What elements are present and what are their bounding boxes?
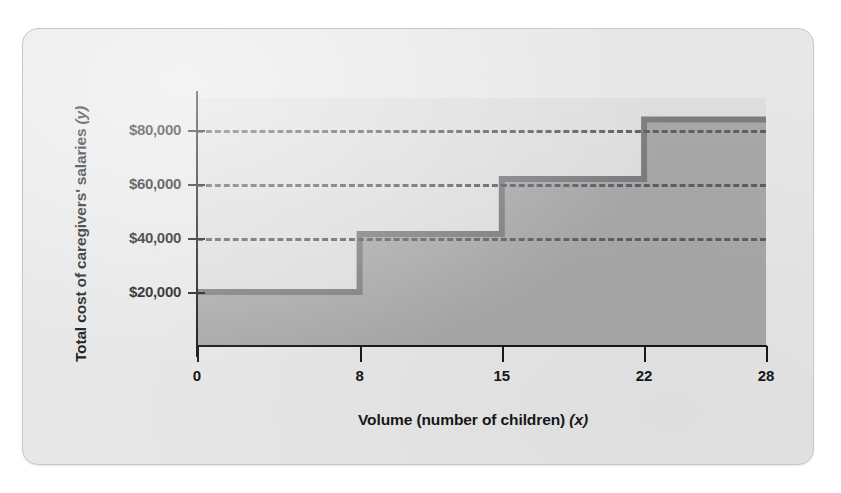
y-tick-label-80000: $80,000	[71, 121, 181, 138]
y-tick-label-40000: $40,000	[71, 229, 181, 246]
x-tick-label-15: 15	[472, 367, 532, 384]
y-tick-80000	[188, 130, 205, 132]
x-axis-title: Volume (number of children) (x)	[153, 411, 793, 429]
x-axis-title-variable: (x)	[569, 411, 588, 428]
x-tick-label-8: 8	[330, 367, 390, 384]
x-tick-label-28: 28	[736, 367, 796, 384]
gridline-40000	[197, 238, 766, 241]
figure-card: Total cost of caregivers' salaries (y) $…	[22, 28, 814, 465]
plot-area	[197, 98, 766, 346]
x-tick-label-22: 22	[614, 367, 674, 384]
x-tick-8	[360, 346, 362, 362]
gridline-80000	[197, 130, 766, 133]
x-tick-15	[502, 346, 504, 362]
x-tick-22	[644, 346, 646, 362]
y-tick-60000	[188, 184, 205, 186]
step-function-series	[197, 98, 766, 346]
y-tick-label-60000: $60,000	[71, 175, 181, 192]
x-tick-28	[766, 346, 768, 362]
y-tick-40000	[188, 238, 205, 240]
x-axis-line	[196, 345, 767, 347]
x-tick-0	[197, 346, 199, 362]
y-tick-label-20000: $20,000	[71, 283, 181, 300]
x-axis-title-text: Volume (number of children)	[358, 411, 565, 428]
x-tick-label-0: 0	[167, 367, 227, 384]
y-tick-20000	[188, 292, 205, 294]
gridline-60000	[197, 184, 766, 187]
